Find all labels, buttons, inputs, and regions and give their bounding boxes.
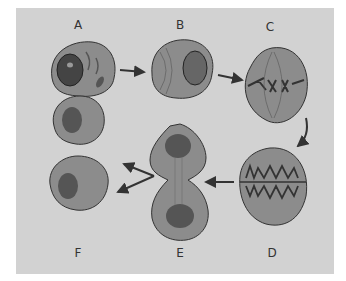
- arrow-b-to-c: [218, 75, 242, 80]
- arrow-e-to-f-top: [124, 164, 154, 176]
- cell-c: [245, 48, 307, 123]
- cell-b: [152, 40, 213, 99]
- cell-a: [52, 42, 115, 97]
- label-d: D: [264, 246, 280, 260]
- label-a: A: [70, 18, 86, 32]
- cell-f-top: [53, 96, 104, 144]
- cell-d: [240, 148, 307, 225]
- arrow-e-to-f-bottom: [118, 176, 154, 192]
- cell-e: [150, 124, 208, 240]
- label-b: B: [172, 18, 188, 32]
- arrow-c-to-d: [298, 118, 307, 146]
- cell-division-diagram: [0, 0, 346, 281]
- label-e: E: [172, 246, 188, 260]
- cell-f-bottom: [50, 156, 108, 210]
- label-c: C: [262, 20, 278, 34]
- arrow-a-to-b: [120, 70, 144, 72]
- label-f: F: [70, 246, 86, 260]
